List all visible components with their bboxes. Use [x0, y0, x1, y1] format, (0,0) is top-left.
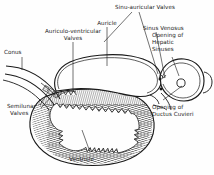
label-ventricle: Ventricle [69, 156, 94, 163]
sa-valve-marker-upper [159, 78, 162, 81]
opening-of-ductus-cuvieri-aperture [177, 79, 185, 87]
label-sinu-auricular-valves: Sinu-auricular Valves [104, 4, 186, 11]
label-opening-of-hepatic-sinuses-line3: Sinuses [152, 46, 174, 53]
heart-anatomy-figure: Sinu-auricular Valves Auricle Auriculo-v… [0, 0, 214, 175]
label-opening-of-hepatic-sinuses-line2: Hepatic [152, 39, 174, 46]
label-sinus-venosus: Sinus Venosus [143, 25, 184, 32]
leader-sinu-auricular-a [104, 12, 132, 42]
label-opening-of-ductus-cuvieri-line2: Ductus Cuvieri [152, 111, 194, 118]
label-semilunar-valves-line2: Valves [10, 110, 28, 117]
label-auriculo-ventricular-valves-line2: Valves [40, 35, 106, 42]
label-opening-of-hepatic-sinuses-line1: Opening of [152, 32, 183, 39]
label-conus: Conus [4, 49, 22, 56]
sa-valve-marker-lower [160, 88, 163, 91]
label-auricle: Auricle [88, 20, 126, 27]
label-opening-of-ductus-cuvieri-line1: Opening of [152, 104, 183, 111]
sinus-venosus-group [160, 59, 212, 101]
